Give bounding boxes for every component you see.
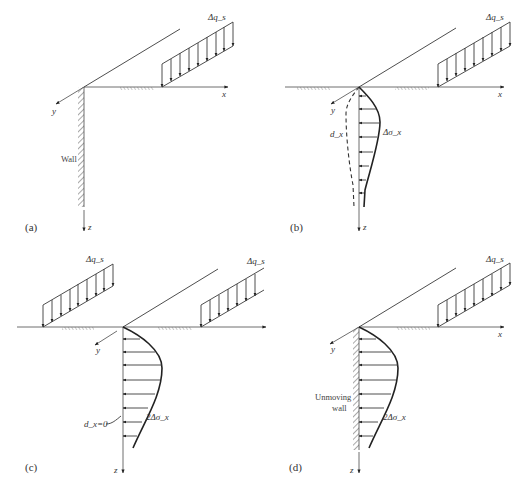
ground-hatching [120, 87, 154, 90]
stress-distribution-curve [359, 327, 398, 448]
displacement-label: d_x [330, 129, 343, 139]
load-label: Δq_s [207, 12, 226, 22]
y-axis-label: y [95, 345, 100, 355]
panel-label: (c) [25, 461, 38, 474]
z-axis-label: z [87, 222, 92, 232]
ground-hatching-right [158, 327, 192, 330]
ground-hatching-right [395, 87, 429, 90]
y-axis-label: y [330, 105, 335, 115]
ground-hatching-left [297, 87, 331, 90]
wall-hatching [78, 87, 84, 207]
strip-load [162, 22, 233, 87]
y-axis [331, 87, 359, 104]
strip-load [201, 268, 264, 327]
stress-label: 2Δσ_x [383, 412, 406, 422]
stress-label: 2Δσ_x [146, 412, 169, 422]
leader-line [106, 416, 121, 424]
strip-load-image [43, 264, 113, 327]
load-label-right: Δq_s [246, 256, 265, 266]
load-label-left: Δq_s [85, 254, 104, 264]
figure-canvas: x y Wall z Δq_s (a) [0, 0, 528, 494]
displacement-label: d_x=0 [84, 419, 108, 429]
x-axis-label: x [497, 89, 502, 99]
y-axis-label: y [51, 106, 56, 116]
wall-label-line1: Unmoving [315, 392, 352, 402]
panel-a: x y Wall z Δq_s (a) [25, 12, 233, 234]
load-label: Δq_s [485, 254, 504, 264]
z-axis-label: z [113, 465, 118, 475]
stress-distribution-curve [359, 87, 380, 207]
strip-load [438, 22, 510, 87]
y-axis [95, 331, 117, 345]
panel-d: x y z Δq_s [289, 254, 510, 475]
wall-hatching [353, 327, 359, 450]
panel-label: (a) [25, 221, 38, 234]
panel-label: (d) [289, 461, 302, 474]
panel-c: y z Δq_s [17, 254, 266, 475]
wall-label-line2: wall [332, 403, 347, 413]
wall-label: Wall [61, 154, 77, 164]
x-axis-label: x [221, 89, 226, 99]
z-axis-label: z [349, 465, 354, 475]
stress-label: Δσ_x [382, 127, 401, 137]
perspective-line [84, 29, 180, 87]
x-axis-label: x [497, 329, 502, 339]
panel-b: x y z Δq_s [285, 12, 510, 234]
ground-hatching [396, 327, 430, 330]
panel-label: (b) [290, 221, 303, 234]
perspective-line [359, 268, 456, 327]
stress-distribution-curve [123, 327, 162, 448]
perspective-line [359, 28, 456, 87]
displacement-curve [346, 87, 359, 207]
z-axis-label: z [362, 222, 367, 232]
perspective-line [123, 269, 218, 327]
ground-hatching-left [62, 327, 94, 330]
load-label: Δq_s [485, 12, 504, 22]
y-axis-label: y [330, 344, 335, 354]
